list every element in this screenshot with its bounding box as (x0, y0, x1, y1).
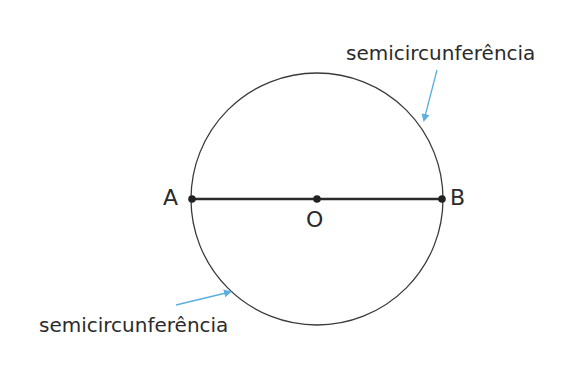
point-o (313, 195, 321, 203)
diagram-canvas: A O B semicircunferência semicircunferên… (0, 0, 584, 370)
label-a: A (163, 185, 178, 210)
upper-arrow (424, 70, 437, 120)
point-b (438, 195, 446, 203)
label-o: O (306, 207, 323, 232)
point-a (188, 195, 196, 203)
upper-semicircle-label: semicircunferência (346, 41, 535, 65)
lower-arrow (176, 292, 230, 305)
label-b: B (450, 185, 465, 210)
lower-semicircle-label: semicircunferência (39, 313, 228, 337)
